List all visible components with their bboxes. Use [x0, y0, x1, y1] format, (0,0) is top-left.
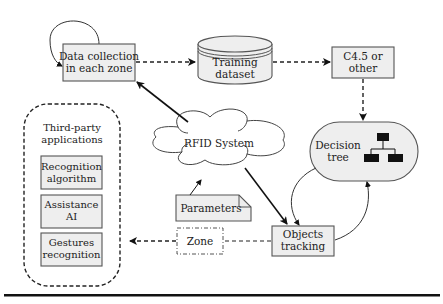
bottom-rule: [4, 294, 440, 297]
parameters-label: Parameters: [180, 202, 241, 214]
data-collection-label-2: in each zone: [66, 62, 133, 74]
app-label-2: AI: [65, 211, 77, 222]
decision-tree-label-2: tree: [327, 151, 349, 163]
decision-tree-label-1: Decision: [315, 139, 361, 151]
app-recognition-algorithm: Recognition algorithm: [41, 156, 102, 189]
objects-tracking-node: Objects tracking: [272, 226, 334, 256]
zone-label: Zone: [187, 235, 214, 247]
app-label-2: recognition: [42, 249, 101, 260]
parameters-node: Parameters: [176, 195, 251, 221]
third-party-title-2: applications: [41, 134, 103, 145]
zone-node: Zone: [177, 228, 223, 254]
decision-tree-node: Decision tree: [310, 122, 418, 181]
app-label-1: Gestures: [49, 237, 94, 248]
arrow-parameters-to-rfid: [190, 180, 201, 195]
app-gestures-recognition: Gestures recognition: [41, 233, 102, 266]
c45-label-2: other: [349, 62, 379, 74]
arrow-rfid-to-collection: [137, 82, 188, 122]
app-label-1: Assistance: [44, 199, 99, 210]
objects-tracking-label-2: tracking: [281, 240, 326, 252]
arrow-tracking-to-tree: [335, 182, 368, 240]
rfid-system-label: RFID System: [184, 137, 254, 149]
training-dataset-node: Training dataset: [198, 36, 272, 84]
rfid-system-node: RFID System: [153, 109, 285, 165]
c45-label-1: C4.5 or: [343, 50, 383, 62]
training-dataset-label-1: Training: [212, 56, 258, 68]
data-collection-node: Data collection in each zone: [59, 44, 139, 81]
training-dataset-label-2: dataset: [215, 68, 255, 80]
data-collection-label-1: Data collection: [59, 50, 139, 62]
objects-tracking-label-1: Objects: [283, 228, 323, 240]
third-party-title-1: Third-party: [43, 122, 101, 133]
app-label-2: algorithm: [47, 173, 97, 184]
c45-node: C4.5 or other: [332, 47, 394, 78]
app-label-1: Recognition: [41, 161, 102, 172]
app-assistance-ai: Assistance AI: [41, 195, 102, 228]
arrow-tree-to-tracking: [291, 168, 316, 225]
third-party-container: Third-party applications Recognition alg…: [24, 104, 120, 286]
